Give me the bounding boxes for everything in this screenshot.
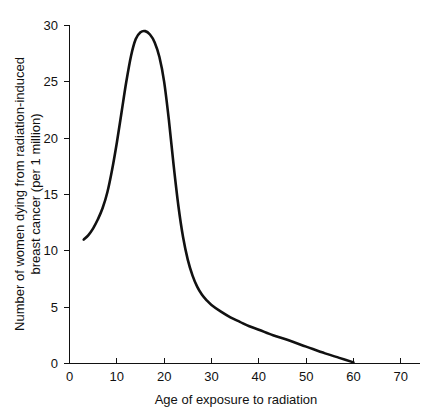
x-tick-label-30: 30 [204,369,218,384]
y-tick-label-5: 5 [51,300,58,315]
x-tick-label-70: 70 [394,369,408,384]
x-tick-label-60: 60 [346,369,360,384]
y-axis-title: Number of women dying from radiation-ind… [12,57,43,331]
y-tick-label-10: 10 [44,243,58,258]
y-tick-label-30: 30 [44,18,58,33]
y-axis-title-line-2: breast cancer (per 1 million) [28,113,43,274]
data-series-line [84,31,354,362]
y-axis-title-line-1: Number of women dying from radiation-ind… [12,57,27,331]
y-tick-label-0: 0 [51,356,58,371]
y-tick-label-25: 25 [44,74,58,89]
y-axis-tick-labels: 0 5 10 15 20 25 30 [44,18,58,371]
chart-canvas: 0 5 10 15 20 25 30 0 10 20 30 40 50 [0,0,436,420]
y-axis-ticks [64,26,70,364]
x-axis-tick-labels: 0 10 20 30 40 50 60 70 [66,369,408,384]
x-tick-label-50: 50 [299,369,313,384]
x-tick-label-0: 0 [66,369,73,384]
chart-figure: 0 5 10 15 20 25 30 0 10 20 30 40 50 [0,0,436,420]
y-tick-label-15: 15 [44,187,58,202]
x-tick-label-20: 20 [157,369,171,384]
x-tick-label-40: 40 [252,369,266,384]
y-tick-label-20: 20 [44,131,58,146]
x-tick-label-10: 10 [110,369,124,384]
x-axis-title: Age of exposure to radiation [155,392,318,407]
